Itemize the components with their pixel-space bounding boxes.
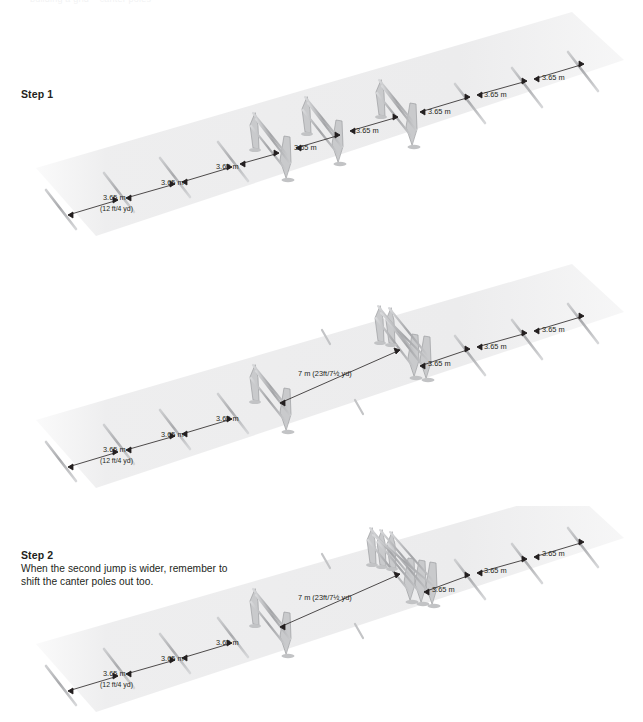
dimension-label: 3.65 m [542,73,565,82]
arena-panel-1 [36,12,624,236]
dimension-label: 3.65 m [484,90,507,99]
dimension-label: 3.65 m [216,414,239,423]
dimension-label: 3.65 m [161,178,184,187]
step-1-block: 3.65 m (12 ft/4 yd) 3.65 m 3.65 m 3.65 m… [0,0,643,258]
dimension-label: 3.65 m [542,549,565,558]
dimension-sublabel: (12 ft/4 yd) [100,457,133,465]
dimension-label: 3.65 m [216,638,239,647]
dimension-label: 3.65 m [428,359,451,368]
step-3-scene: 3.65 m (12 ft/4 yd) 3.65 m 3.65 m 7 m (2… [0,506,643,722]
step-1-title: Step 1 [21,88,53,101]
diagram-page: building a grid – canter poles [0,0,643,722]
dimension-label: 3.65 m [542,325,565,334]
dimension-label: 3.65 m [161,654,184,663]
dimension-label: 3.65 m [103,669,126,678]
step-3-block: 3.65 m (12 ft/4 yd) 3.65 m 3.65 m 7 m (2… [0,506,643,722]
dimension-label: 3.65 m [432,585,455,594]
step-2-line-2: shift the canter poles out too. [21,575,228,588]
dimension-sublabel: (12 ft/4 yd) [100,205,133,213]
dimension-label: 3.65 m [161,430,184,439]
step-2-line-1: When the second jump is wider, remember … [21,562,228,575]
dimension-label: 7 m (23ft/7½ yd) [298,369,352,378]
dimension-label: 3.65 m [103,445,126,454]
dimension-label: 3.65 m [484,566,507,575]
dimension-label: 3.65 m [356,126,379,135]
step-1-scene: 3.65 m (12 ft/4 yd) 3.65 m 3.65 m 3.65 m… [0,0,643,258]
dimension-label: 3.65 m [216,162,239,171]
step-1-caption: Step 1 [21,88,53,101]
step-2-caption: Step 2 When the second jump is wider, re… [21,549,228,588]
step-2-block: 3.65 m (12 ft/4 yd) 3.65 m 3.65 m 7 m (2… [0,258,643,506]
dimension-label: 3.65 m [428,107,451,116]
dimension-label: 3.65 m [294,143,317,152]
dimension-label: 3.65 m [484,342,507,351]
dimension-label: 3.65 m [103,193,126,202]
dimension-label: 7 m (23ft/7½ yd) [298,593,352,602]
step-2-scene: 3.65 m (12 ft/4 yd) 3.65 m 3.65 m 7 m (2… [0,258,643,506]
dimension-sublabel: (12 ft/4 yd) [100,681,133,689]
step-2-title: Step 2 [21,549,228,562]
